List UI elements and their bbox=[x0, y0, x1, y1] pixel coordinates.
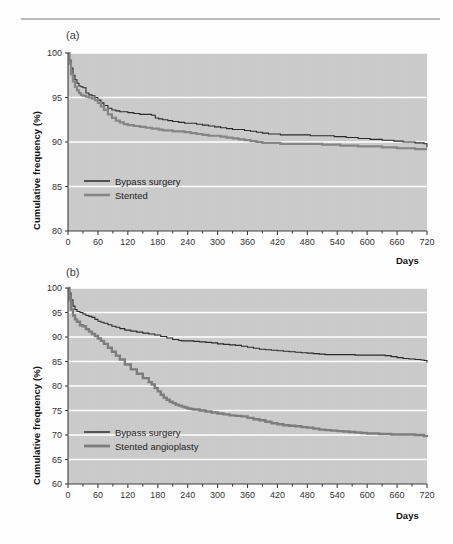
figure-page: (a) Cumulative frequency (%) Days 808590… bbox=[0, 0, 453, 544]
y-tick-label: 80 bbox=[52, 381, 62, 391]
panel-a-plot: 8085909510006012018024030036042048054060… bbox=[0, 22, 453, 259]
panel-b-plot: 6065707580859095100060120180240300360420… bbox=[0, 259, 453, 514]
x-tick-label: 300 bbox=[210, 490, 225, 500]
x-tick-label: 180 bbox=[150, 237, 165, 247]
y-tick-label: 95 bbox=[52, 93, 62, 103]
x-tick-label: 480 bbox=[300, 490, 315, 500]
legend-label-0: Bypass surgery bbox=[115, 176, 181, 187]
x-tick-label: 360 bbox=[240, 237, 255, 247]
x-tick-label: 120 bbox=[120, 490, 135, 500]
y-tick-label: 90 bbox=[52, 137, 62, 147]
panel-b-svg: 6065707580859095100060120180240300360420… bbox=[0, 259, 453, 514]
x-tick-label: 420 bbox=[270, 490, 285, 500]
x-tick-label: 540 bbox=[330, 237, 345, 247]
y-tick-label: 95 bbox=[52, 308, 62, 318]
x-tick-label: 600 bbox=[360, 237, 375, 247]
x-tick-label: 540 bbox=[330, 490, 345, 500]
x-tick-label: 240 bbox=[180, 490, 195, 500]
x-tick-label: 720 bbox=[419, 490, 434, 500]
x-tick-label: 180 bbox=[150, 490, 165, 500]
x-tick-label: 480 bbox=[300, 237, 315, 247]
legend-label-0: Bypass surgery bbox=[115, 427, 181, 438]
y-tick-label: 70 bbox=[52, 430, 62, 440]
y-tick-label: 85 bbox=[52, 182, 62, 192]
x-tick-label: 0 bbox=[65, 237, 70, 247]
y-tick-label: 80 bbox=[52, 226, 62, 236]
y-tick-label: 90 bbox=[52, 332, 62, 342]
y-tick-label: 65 bbox=[52, 455, 62, 465]
top-divider-rule bbox=[21, 18, 440, 20]
x-tick-label: 360 bbox=[240, 490, 255, 500]
y-tick-label: 60 bbox=[52, 479, 62, 489]
x-tick-label: 300 bbox=[210, 237, 225, 247]
y-tick-label: 100 bbox=[47, 283, 62, 293]
y-tick-label: 100 bbox=[47, 48, 62, 58]
x-tick-label: 240 bbox=[180, 237, 195, 247]
x-tick-label: 60 bbox=[93, 237, 103, 247]
x-tick-label: 420 bbox=[270, 237, 285, 247]
legend-label-1: Stented bbox=[115, 190, 148, 201]
y-tick-label: 75 bbox=[52, 406, 62, 416]
x-tick-label: 60 bbox=[93, 490, 103, 500]
legend-label-1: Stented angioplasty bbox=[115, 441, 199, 452]
x-tick-label: 720 bbox=[419, 237, 434, 247]
y-tick-label: 85 bbox=[52, 357, 62, 367]
x-tick-label: 0 bbox=[65, 490, 70, 500]
x-tick-label: 600 bbox=[360, 490, 375, 500]
x-tick-label: 660 bbox=[390, 237, 405, 247]
panel-a-svg: 8085909510006012018024030036042048054060… bbox=[0, 22, 453, 259]
x-tick-label: 120 bbox=[120, 237, 135, 247]
x-tick-label: 660 bbox=[390, 490, 405, 500]
